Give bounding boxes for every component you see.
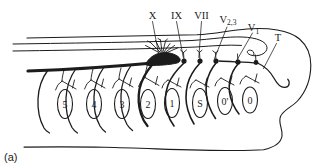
nerve-branch-lines xyxy=(139,61,290,126)
nerve-label-V23: V2,3 xyxy=(220,14,237,28)
arch-label-4: 4 xyxy=(92,99,97,110)
nerve-label-VII: VII xyxy=(194,10,209,21)
arch-label-1: 1 xyxy=(170,98,175,109)
panel-caption: (a) xyxy=(4,151,17,163)
nerve-label-IX: IX xyxy=(171,10,182,21)
arch-label-S: S xyxy=(197,98,203,109)
anatomy-diagram-panel: 5 4 3 2 1 S 0' 0 X IX VII xyxy=(0,0,321,168)
arch-label-0: 0 xyxy=(248,95,253,106)
arch-label-3: 3 xyxy=(120,99,125,110)
arch-label-2: 2 xyxy=(146,99,151,110)
diagram-canvas: 5 4 3 2 1 S 0' 0 X IX VII xyxy=(0,0,321,168)
arch-number-labels: 5 4 3 2 1 S 0' 0 xyxy=(63,95,253,110)
arch-label-0p: 0' xyxy=(222,96,229,107)
neural-tube-lines xyxy=(13,37,267,56)
nerve-label-V1: V1 xyxy=(248,22,260,36)
nerve-label-T: T xyxy=(275,32,282,43)
vagus-ganglion-blob xyxy=(145,53,180,66)
gill-slit-curves xyxy=(38,66,133,134)
arch-label-5: 5 xyxy=(63,99,68,110)
nerve-label-X: X xyxy=(149,10,157,21)
